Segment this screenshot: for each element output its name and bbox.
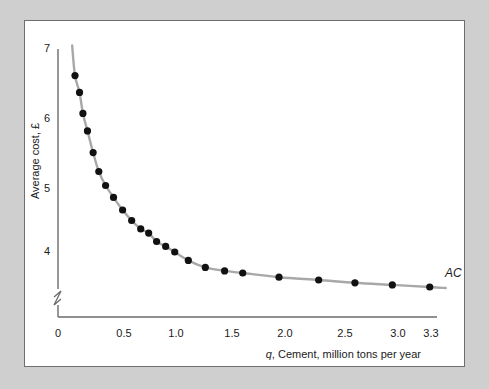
y-tick-label-7: 7 [44,42,50,54]
ac-curve-line [72,46,445,289]
x-tick-label-0: 0 [55,327,61,339]
data-point [351,279,358,286]
x-axis-title: q, Cement, million tons per year [266,348,422,360]
x-tick-label-2-5: 2.5 [337,327,352,339]
data-point [221,267,228,274]
series-label-ac: AC [444,266,462,280]
data-point [389,281,396,288]
x-tick-label-3-3: 3.3 [423,327,438,339]
ac-data-points [71,72,433,291]
data-point [137,225,144,232]
data-point [119,206,126,213]
data-point [315,276,322,283]
y-tick-label-6: 6 [44,112,50,124]
data-point [71,72,78,79]
y-axis-break-icon [54,291,61,305]
x-tick-label-3-0: 3.0 [390,327,405,339]
x-tick-label-1-0: 1.0 [168,327,183,339]
data-point [76,89,83,96]
data-point [128,217,135,224]
x-tick-label-1-5: 1.5 [224,327,239,339]
data-point [275,274,282,281]
data-point [145,230,152,237]
data-point [162,243,169,250]
y-tick-label-4: 4 [44,245,50,257]
data-point [239,269,246,276]
data-point [185,257,192,264]
data-point [90,149,97,156]
y-tick-label-5: 5 [44,182,50,194]
data-point [95,168,102,175]
figure-frame: 7 6 5 4 0 0.5 1.0 1.5 2.0 2.5 3.0 3.3 Av… [24,20,465,367]
data-point [171,248,178,255]
average-cost-chart: 7 6 5 4 0 0.5 1.0 1.5 2.0 2.5 3.0 3.3 Av… [25,21,466,368]
chart-plot-area: 7 6 5 4 0 0.5 1.0 1.5 2.0 2.5 3.0 3.3 Av… [25,21,466,368]
data-point [110,194,117,201]
data-point [153,238,160,245]
data-point [202,264,209,271]
y-axis-title: Average cost, £ [29,123,41,199]
data-point [102,182,109,189]
x-tick-label-0-5: 0.5 [116,327,131,339]
data-point [79,110,86,117]
data-point [84,127,91,134]
data-point [426,283,433,290]
x-tick-label-2-0: 2.0 [277,327,292,339]
x-axis-title-text: , Cement, million tons per year [272,348,422,360]
